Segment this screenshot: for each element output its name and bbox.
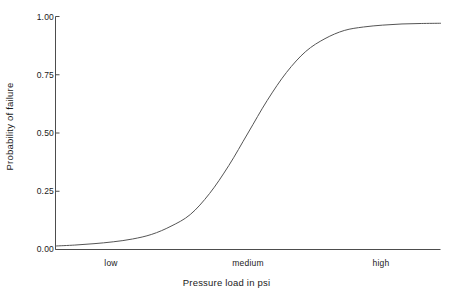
y-tick-label-2: 0.75 (20, 70, 54, 80)
chart-figure: 1.00 0.75 0.50 0.25 0.00 low medium high… (0, 0, 453, 297)
plot-area (0, 0, 453, 297)
y-tick-label-3: 0.50 (20, 128, 54, 138)
y-axis-title-text: Probability of failure (5, 82, 16, 170)
series-line-probability-of-failure (56, 23, 441, 246)
y-tick-label-1: 1.00 (20, 12, 54, 22)
x-tick-label-medium: medium (232, 258, 263, 268)
y-axis-ticks (56, 17, 60, 250)
y-tick-label-4: 0.25 (20, 186, 54, 196)
x-axis-title: Pressure load in psi (0, 277, 453, 288)
y-axis-title: Probability of failure (3, 0, 17, 252)
y-tick-label-5: 0.00 (20, 244, 54, 254)
x-tick-label-low: low (104, 258, 117, 268)
x-tick-label-high: high (373, 258, 390, 268)
